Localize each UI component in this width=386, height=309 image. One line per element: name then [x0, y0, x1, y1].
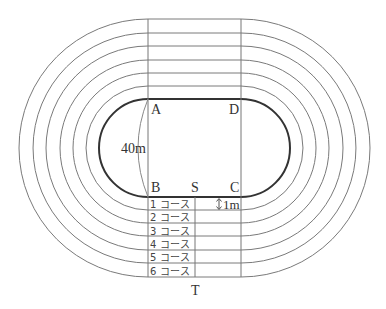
point-B-label: B: [151, 181, 160, 195]
lane-3-label: 3 コース: [150, 225, 190, 238]
lane-6-label: 6 コース: [150, 265, 190, 278]
lane-width-arrow: [217, 199, 222, 210]
point-A-label: A: [151, 103, 161, 117]
point-D-label: D: [229, 103, 239, 117]
point-S-label: S: [191, 181, 199, 195]
lane-width-1m-label: 1m: [223, 198, 240, 212]
lane-1-label: 1 コース: [150, 198, 190, 211]
lane-5-label: 5 コース: [150, 251, 190, 264]
lane-4-label: 4 コース: [150, 238, 190, 251]
point-C-label: C: [230, 181, 239, 195]
track-drawing: [0, 0, 386, 309]
point-T-label: T: [191, 284, 200, 298]
running-track-diagram: A D B S C T 40m 1m 1 コース 2 コース 3 コース 4 コ…: [0, 0, 386, 309]
lane-2-label: 2 コース: [150, 211, 190, 224]
width-40m-label: 40m: [121, 142, 146, 156]
